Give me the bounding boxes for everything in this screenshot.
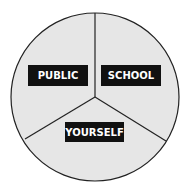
sector-label-yourself: YOURSELF bbox=[65, 122, 124, 142]
circle-diagram bbox=[0, 0, 191, 193]
sector-label-school: SCHOOL bbox=[101, 65, 161, 86]
sector-label-public: PUBLIC bbox=[28, 65, 88, 86]
